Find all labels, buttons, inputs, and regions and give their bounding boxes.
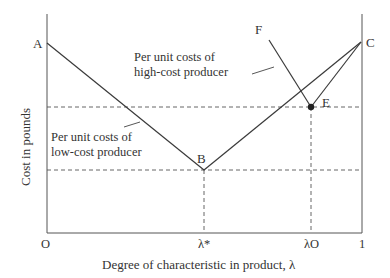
point-label-f: F — [255, 22, 262, 37]
y-axis-title: Cost in pounds — [18, 108, 33, 186]
point-e-marker — [308, 104, 314, 110]
line-f-e — [269, 40, 311, 107]
point-label-b: B — [197, 151, 206, 166]
tick-one: 1 — [359, 237, 365, 251]
point-label-a: A — [33, 36, 43, 51]
low-cost-pointer — [124, 122, 140, 127]
tick-lambda-star: λ* — [198, 237, 210, 251]
tick-lambda-o: λO — [304, 237, 319, 251]
cost-diagram: A B C E F Per unit costs of high-cost pr… — [0, 0, 390, 278]
line-e-c — [311, 42, 361, 107]
low-cost-label-line1: Per unit costs of — [51, 130, 133, 144]
high-cost-label-line1: Per unit costs of — [134, 50, 216, 64]
point-label-e: E — [322, 95, 330, 110]
high-cost-label-line2: high-cost producer — [134, 65, 229, 79]
point-label-c: C — [366, 35, 375, 50]
low-cost-label-line2: low-cost producer — [51, 145, 142, 159]
x-axis-title: Degree of characteristic in product, λ — [102, 257, 296, 272]
high-cost-pointer — [252, 67, 274, 74]
origin-label: O — [41, 237, 50, 251]
